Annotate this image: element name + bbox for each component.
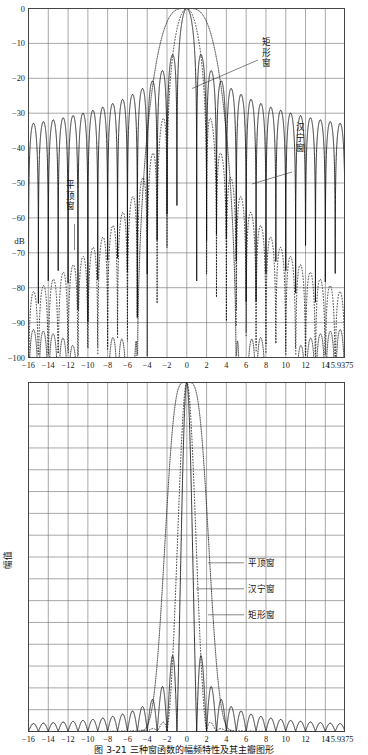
figure-caption: 图 3-21 三种窗函数的幅频特性及其主瓣图形 xyxy=(94,744,273,755)
xtick-label-bottom: −14 xyxy=(42,735,56,744)
figure-window-spectra: 0−10−20−30−40−50−60−70−80−90−100dB−16−14… xyxy=(0,0,368,755)
xtick-label-bottom: −4 xyxy=(143,735,153,744)
xtick-label-top: −2 xyxy=(163,361,172,370)
yaxis-label-top: dB xyxy=(14,236,25,246)
xtick-label-bottom: 12 xyxy=(301,735,309,744)
xtick-label-top: 8 xyxy=(264,361,268,370)
ytick-label-top: −40 xyxy=(12,144,25,153)
ytick-label-top: −30 xyxy=(12,109,25,118)
grid-horizontal-bottom xyxy=(29,383,345,732)
xtick-label-bottom: −2 xyxy=(163,735,172,744)
xtick-label-bottom: 15.9375 xyxy=(327,735,354,744)
annotation-char: 顶 xyxy=(66,191,75,201)
leader-rect-top xyxy=(192,60,258,89)
xtick-label-bottom: 0 xyxy=(185,735,189,744)
xtick-label-top: −16 xyxy=(22,361,35,370)
annotation-char: 平 xyxy=(66,180,75,190)
xtick-label-top: 15.9375 xyxy=(327,361,354,370)
annotation-hanning-bottom: 汉宁窗 xyxy=(248,583,275,594)
annotation-char: 汉 xyxy=(296,122,305,132)
yaxis-label-bottom: 幅值 xyxy=(2,551,13,569)
ytick-label-top: −90 xyxy=(12,319,25,328)
xtick-label-bottom: 4 xyxy=(224,735,229,744)
ytick-label-top: −80 xyxy=(12,284,25,293)
xtick-label-top: 4 xyxy=(224,361,229,370)
annotation-char: 宁 xyxy=(296,132,305,143)
annotation-char: 矩 xyxy=(262,36,271,47)
figure-caption-group: 图 3-21 三种窗函数的幅频特性及其主瓣图形 xyxy=(94,744,273,755)
xtick-label-bottom: 6 xyxy=(244,735,248,744)
annotation-flattop-bottom: 平顶窗 xyxy=(248,557,275,568)
xtick-label-top: −4 xyxy=(143,361,153,370)
xtick-label-bottom: −12 xyxy=(62,735,75,744)
annotation-hanning-top: 汉宁窗 xyxy=(296,122,305,153)
xtick-label-top: 0 xyxy=(185,361,189,370)
annotation-rectangular-bottom: 矩形窗 xyxy=(248,609,275,620)
xtick-label-top: −8 xyxy=(103,361,112,370)
chart-magnitude-db: 0−10−20−30−40−50−60−70−80−90−100dB−16−14… xyxy=(8,5,354,370)
annotation-flattop-top: 平顶窗 xyxy=(66,180,75,211)
annotation-rectangular-top: 矩形窗 xyxy=(262,36,271,68)
ytick-label-top: −70 xyxy=(12,249,25,258)
xtick-label-top: 12 xyxy=(301,361,309,370)
ytick-label-top: −10 xyxy=(12,39,25,48)
xtick-label-top: 6 xyxy=(244,361,248,370)
xtick-label-bottom: −16 xyxy=(22,735,35,744)
xtick-label-top: −10 xyxy=(81,361,94,370)
annotation-char: 形 xyxy=(262,48,271,58)
xtick-label-bottom: −6 xyxy=(123,735,132,744)
ytick-label-top: −20 xyxy=(12,74,25,83)
xtick-label-top: 2 xyxy=(205,361,209,370)
ytick-label-top: 0 xyxy=(21,5,25,14)
chart-magnitude-linear: −16−14−12−10−8−6−4−20246810121415.9375幅值… xyxy=(2,382,354,743)
ytick-label-top: −50 xyxy=(12,179,25,188)
annotation-char: 窗 xyxy=(66,200,75,211)
grid-horizontal-top xyxy=(29,9,345,358)
xtick-label-bottom: 10 xyxy=(282,735,290,744)
xtick-label-bottom: 8 xyxy=(264,735,268,744)
ytick-label-top: −60 xyxy=(12,214,25,223)
xtick-label-bottom: −8 xyxy=(103,735,112,744)
xtick-label-bottom: 2 xyxy=(205,735,209,744)
xtick-label-top: −12 xyxy=(62,361,75,370)
figure-svg: 0−10−20−30−40−50−60−70−80−90−100dB−16−14… xyxy=(0,0,368,755)
xtick-label-top: −14 xyxy=(42,361,56,370)
annotation-char: 窗 xyxy=(262,57,271,68)
xtick-label-top: 10 xyxy=(282,361,290,370)
annotation-char: 窗 xyxy=(296,142,305,153)
xtick-label-top: −6 xyxy=(123,361,132,370)
xtick-label-bottom: −10 xyxy=(81,735,94,744)
